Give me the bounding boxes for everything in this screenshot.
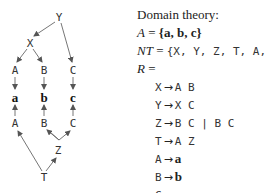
- right-arrow-icon: →: [164, 153, 173, 166]
- alphabet-definition: A = {a, b, c}: [137, 24, 271, 42]
- alphabet-label: A: [137, 25, 145, 40]
- node-T: T: [41, 172, 48, 183]
- rule-rhs: a: [175, 151, 182, 166]
- rule-B: B→b: [137, 168, 271, 186]
- rule-lhs: X: [155, 81, 162, 94]
- nonterminals-definition: NT = {X, Y, Z, T, A, B, C}: [137, 42, 271, 60]
- rule-lhs: T: [155, 135, 162, 148]
- equals-sign: =: [148, 61, 155, 76]
- rule-C: C→c: [137, 186, 271, 193]
- right-arrow-icon: →: [164, 99, 173, 112]
- right-arrow-icon: →: [164, 117, 173, 130]
- right-arrow-icon: →: [164, 171, 173, 184]
- equals-sign: =: [156, 43, 163, 58]
- domain-theory: Domain theory: A = {a, b, c} NT = {X, Y,…: [137, 6, 271, 193]
- rule-lhs: C: [155, 189, 162, 193]
- rules-definition: R =: [137, 60, 271, 78]
- rule-rhs: c: [175, 187, 181, 193]
- node-Z: Z: [55, 145, 62, 156]
- node-X: X: [27, 38, 34, 49]
- nt-value: {X, Y, Z, T, A, B, C}: [167, 45, 271, 58]
- rule-T: T→A Z: [137, 132, 271, 150]
- node-C-top: C: [70, 65, 77, 76]
- rules-label: R: [137, 61, 145, 76]
- rule-A: A→a: [137, 150, 271, 168]
- rule-lhs: B: [155, 171, 162, 184]
- node-B-top: B: [41, 65, 48, 76]
- rule-lhs: Z: [155, 117, 162, 130]
- node-Y: Y: [56, 12, 63, 23]
- terminal-b: b: [40, 92, 47, 103]
- equals-sign: =: [148, 25, 155, 40]
- rule-rhs: b: [175, 169, 182, 184]
- rule-rhs: X C: [175, 99, 195, 112]
- right-arrow-icon: →: [164, 189, 173, 193]
- nt-label: NT: [137, 43, 153, 58]
- node-B-bottom: B: [41, 118, 48, 129]
- rule-rhs: B C | B C: [175, 117, 235, 130]
- rule-X: X→A B: [137, 78, 271, 96]
- node-A-top: A: [12, 65, 19, 76]
- rule-lhs: Y: [155, 99, 162, 112]
- rule-rhs: A Z: [175, 135, 195, 148]
- theory-title: Domain theory:: [137, 6, 271, 24]
- node-C-bottom: C: [70, 118, 77, 129]
- terminal-c: c: [70, 92, 76, 103]
- right-arrow-icon: →: [164, 135, 173, 148]
- terminal-a: a: [12, 92, 19, 103]
- rule-Z: Z→B C | B C: [137, 114, 271, 132]
- node-A-bottom: A: [12, 118, 19, 129]
- alphabet-value: {a, b, c}: [159, 25, 202, 40]
- rule-Y: Y→X C: [137, 96, 271, 114]
- rule-rhs: A B: [175, 81, 195, 94]
- rule-lhs: A: [155, 153, 162, 166]
- grammar-graph: Y X A B C a b c A B C Z T: [0, 0, 100, 193]
- right-arrow-icon: →: [164, 81, 173, 94]
